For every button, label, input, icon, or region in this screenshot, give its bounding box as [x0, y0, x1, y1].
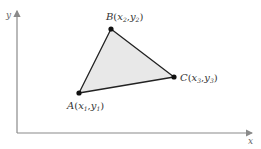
vertex-a-label: A(x1,y1): [66, 100, 104, 112]
coordinate-diagram: y x B(x2,y2) C(x3,y3) A(x1,y1): [0, 0, 261, 149]
vertex-b-point: [108, 26, 113, 31]
x-axis-label: x: [248, 136, 253, 146]
vertex-b-label: B(x2,y2): [105, 11, 143, 23]
vertex-c-point: [171, 74, 176, 79]
vertex-c-label: C(x3,y3): [180, 72, 218, 84]
y-axis-label: y: [5, 10, 12, 20]
triangle: [79, 29, 174, 93]
diagram-svg: y x B(x2,y2) C(x3,y3) A(x1,y1): [0, 0, 261, 149]
vertex-a-point: [76, 90, 81, 95]
